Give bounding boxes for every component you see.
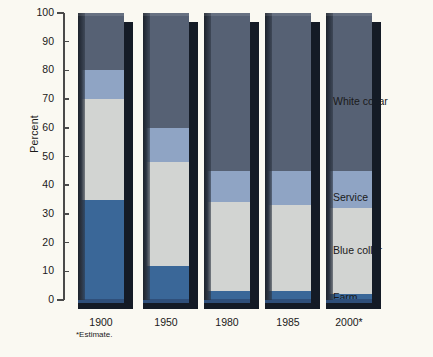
x-axis-tick-label: 1900 — [67, 316, 135, 328]
bar-stack — [143, 13, 189, 300]
y-axis-tick-0 — [57, 299, 64, 301]
bar-segment-service[interactable] — [265, 171, 311, 205]
bar-segment-blue-collar[interactable] — [204, 202, 250, 291]
y-axis-tick-20 — [63, 242, 69, 244]
y-axis-tick-label: 90 — [20, 36, 54, 47]
bar-1980[interactable]: 1980 — [204, 13, 250, 300]
y-axis-tick-label: 20 — [20, 237, 54, 248]
y-axis-tick-30 — [63, 213, 69, 215]
y-axis-tick-label: 70 — [20, 93, 54, 104]
bar-right-shadow-face — [250, 22, 259, 309]
bar-2000[interactable]: 2000* — [326, 13, 372, 300]
x-axis-tick-label: 1985 — [254, 316, 322, 328]
y-axis-tick-label: 80 — [20, 64, 54, 75]
bar-segment-white-collar[interactable] — [326, 13, 372, 171]
bar-1900[interactable]: 1900 — [78, 13, 124, 300]
bar-base-shelf — [78, 299, 124, 309]
bar-stack — [326, 13, 372, 300]
y-axis-tick-label: 30 — [20, 208, 54, 219]
y-axis-tick-90 — [63, 41, 69, 43]
x-axis-tick-label: 1950 — [132, 316, 200, 328]
y-axis-tick-10 — [63, 271, 69, 273]
bar-base-shelf — [326, 299, 372, 309]
bar-segment-blue-collar[interactable] — [265, 205, 311, 291]
bar-right-shadow-face — [189, 22, 198, 309]
y-axis-tick-label: 0 — [20, 294, 54, 305]
bar-segment-service[interactable] — [204, 171, 250, 203]
bar-right-shadow-face — [372, 22, 381, 309]
bar-right-shadow-face — [311, 22, 320, 309]
bar-segment-service[interactable] — [143, 128, 189, 162]
y-axis-tick-label: 40 — [20, 179, 54, 190]
bar-stack — [78, 13, 124, 300]
x-axis-tick-label: 2000* — [315, 316, 383, 328]
y-axis-tick-100 — [57, 12, 64, 14]
y-axis-title: Percent — [28, 94, 40, 174]
bar-segment-white-collar[interactable] — [143, 13, 189, 128]
bar-segment-white-collar[interactable] — [78, 13, 124, 70]
y-axis-tick-80 — [63, 70, 69, 72]
bar-segment-blue-collar[interactable] — [143, 162, 189, 265]
bar-segment-blue-collar[interactable] — [78, 99, 124, 199]
bar-right-shadow-face — [124, 22, 133, 309]
bar-stack — [204, 13, 250, 300]
footnote: *Estimate. — [76, 330, 112, 339]
bar-segment-service[interactable] — [78, 70, 124, 99]
bar-stack — [265, 13, 311, 300]
y-axis-tick-60 — [63, 127, 69, 129]
y-axis-tick-label: 100 — [20, 7, 54, 18]
bar-1985[interactable]: 1985 — [265, 13, 311, 300]
bar-segment-farm[interactable] — [78, 200, 124, 300]
bar-segment-farm[interactable] — [143, 266, 189, 300]
bar-base-shelf — [265, 299, 311, 309]
stacked-bar-chart: Percent 1009080706050403020100 190019501… — [0, 0, 433, 357]
bar-segment-white-collar[interactable] — [204, 13, 250, 171]
bar-base-shelf — [143, 299, 189, 309]
bar-1950[interactable]: 1950 — [143, 13, 189, 300]
bar-base-shelf — [204, 299, 250, 309]
x-axis-tick-label: 1980 — [193, 316, 261, 328]
y-axis-tick-label: 10 — [20, 265, 54, 276]
y-axis-tick-50 — [63, 156, 69, 158]
y-axis-tick-label: 50 — [20, 151, 54, 162]
series-label-service: Service — [333, 192, 368, 203]
bar-segment-white-collar[interactable] — [265, 13, 311, 171]
y-axis-tick-label: 60 — [20, 122, 54, 133]
y-axis-tick-70 — [63, 98, 69, 100]
y-axis-tick-40 — [63, 184, 69, 186]
